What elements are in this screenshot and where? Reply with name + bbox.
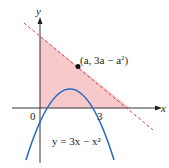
x-tick-label-3: 3	[97, 110, 103, 122]
point-label-main: (a, 3a − a	[80, 54, 121, 67]
y-axis-label: y	[35, 5, 41, 17]
x-axis-label: x	[160, 102, 166, 114]
parabola-tangent-diagram: y x 0 3 (a, 3a − a2) y = 3x − x²	[0, 0, 169, 168]
origin-label: 0	[30, 110, 36, 122]
equation-label: y = 3x − x²	[52, 135, 101, 147]
y-axis-arrow-icon	[38, 17, 43, 24]
point-label-close: )	[125, 54, 129, 67]
point-label: (a, 3a − a2)	[80, 54, 129, 67]
